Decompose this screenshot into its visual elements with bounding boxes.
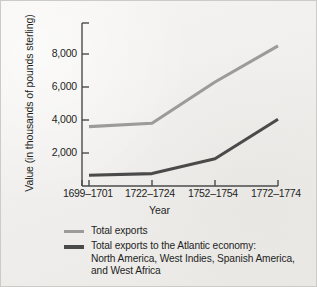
chart-figure: Value (in thousands of pounds sterling) … [0, 0, 317, 287]
y-tick-label: 6,000 [52, 80, 77, 92]
legend-label: Total exports to the Atlantic economy: [91, 240, 295, 252]
legend-label-block: Total exports to the Atlantic economy: N… [91, 240, 295, 277]
legend-swatch-light-icon [64, 230, 84, 233]
legend-label: Total exports [91, 225, 147, 237]
x-tick-label: 1772–1774 [251, 187, 301, 199]
x-axis-title: Year [1, 204, 317, 216]
legend-swatch-dark-icon [64, 245, 84, 249]
chart-legend: Total exports Total exports to the Atlan… [64, 225, 309, 280]
legend-label-line3: and West Africa [91, 265, 295, 277]
series-line-atlantic-economy [89, 119, 278, 175]
x-tick-label: 1699–1701 [63, 187, 113, 199]
legend-label-line2: North America, West Indies, Spanish Amer… [91, 253, 295, 265]
y-tick-label: 4,000 [52, 113, 77, 125]
x-tick-label: 1722–1724 [125, 187, 175, 199]
series-line-total-exports [89, 46, 278, 127]
legend-item-atlantic-economy: Total exports to the Atlantic economy: N… [64, 240, 309, 277]
y-tick-label: 2,000 [52, 146, 77, 158]
y-axis-ticks [82, 54, 89, 153]
y-tick-label: 8,000 [52, 47, 77, 59]
legend-item-total-exports: Total exports [64, 225, 309, 237]
x-tick-label: 1752–1754 [188, 187, 238, 199]
x-axis-ticks [89, 180, 278, 186]
